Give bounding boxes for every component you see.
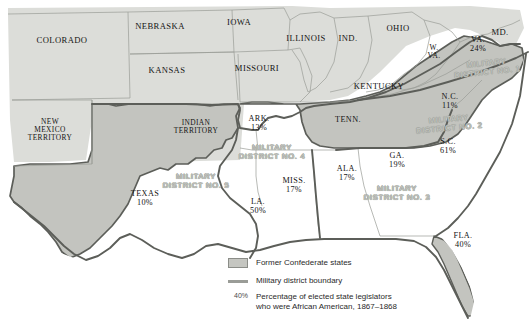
legend-swatch-confederate — [228, 258, 248, 268]
legend-item-1: Former Confederate states — [228, 258, 352, 268]
legend-label: Percentage of elected state legislators … — [256, 292, 397, 312]
map-legend: Former Confederate statesMilitary distri… — [228, 258, 498, 316]
legend-item-3: 40%Percentage of elected state legislato… — [228, 292, 397, 312]
legend-percentage-sample: 40% — [228, 292, 248, 299]
legend-item-2: Military district boundary — [228, 276, 342, 286]
map-figure: MILITARY DISTRICT NO. 1MILITARY DISTRICT… — [0, 0, 530, 319]
legend-line-district-boundary — [228, 280, 248, 283]
legend-label: Former Confederate states — [256, 258, 352, 268]
legend-label: Military district boundary — [256, 276, 342, 286]
